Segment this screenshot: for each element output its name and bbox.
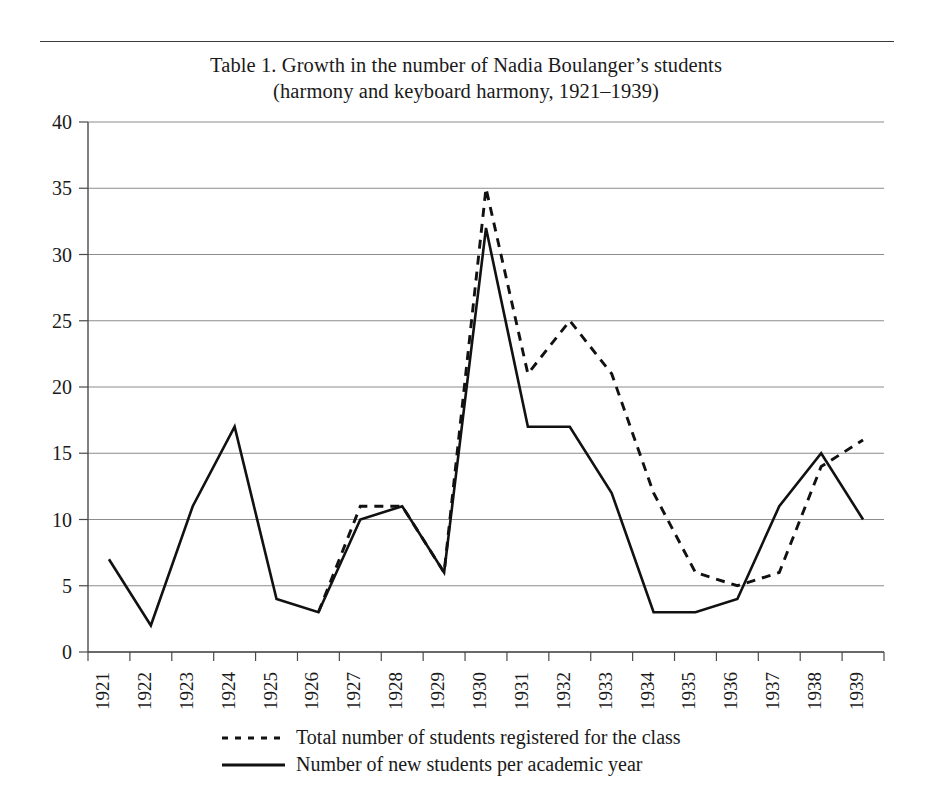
x-tick-label: 1925 xyxy=(260,672,281,710)
x-tick-label: 1929 xyxy=(427,672,448,710)
x-tick-label: 1921 xyxy=(92,672,113,710)
legend-label: Total number of students registered for … xyxy=(296,726,681,749)
x-tick-label: 1935 xyxy=(678,672,699,710)
x-tick-label: 1936 xyxy=(720,672,741,710)
x-axis-ticks-group xyxy=(88,652,884,661)
legend-label: Number of new students per academic year xyxy=(296,753,643,776)
line-chart: 0510152025303540 19211922192319241925192… xyxy=(0,0,932,811)
y-axis-ticks-group xyxy=(79,122,88,652)
x-tick-label: 1938 xyxy=(804,672,825,710)
y-tick-label: 35 xyxy=(52,177,72,199)
gridlines-group xyxy=(88,122,884,652)
y-tick-label: 40 xyxy=(52,111,72,133)
y-axis-labels-group: 0510152025303540 xyxy=(52,111,72,663)
plot-area: 0510152025303540 19211922192319241925192… xyxy=(0,0,932,811)
x-tick-label: 1934 xyxy=(637,672,658,711)
series-total-registered-line xyxy=(318,188,863,612)
y-tick-label: 0 xyxy=(62,641,72,663)
x-tick-label: 1926 xyxy=(301,672,322,710)
y-tick-label: 20 xyxy=(52,376,72,398)
figure-container: Table 1. Growth in the number of Nadia B… xyxy=(0,0,932,811)
legend: Total number of students registered for … xyxy=(222,726,681,776)
x-tick-label: 1924 xyxy=(218,672,239,711)
x-tick-label: 1939 xyxy=(846,672,867,710)
y-tick-label: 25 xyxy=(52,310,72,332)
x-tick-label: 1932 xyxy=(553,672,574,710)
y-tick-label: 5 xyxy=(62,575,72,597)
x-tick-label: 1922 xyxy=(134,672,155,710)
x-tick-label: 1937 xyxy=(762,672,783,710)
x-axis-labels-group: 1921192219231924192519261927192819291930… xyxy=(92,672,867,711)
x-tick-label: 1930 xyxy=(469,672,490,710)
series-new-students-line xyxy=(109,228,863,626)
y-tick-label: 30 xyxy=(52,244,72,266)
x-tick-label: 1927 xyxy=(343,672,364,710)
x-tick-label: 1928 xyxy=(385,672,406,710)
y-tick-label: 10 xyxy=(52,509,72,531)
x-tick-label: 1923 xyxy=(176,672,197,710)
y-tick-label: 15 xyxy=(52,442,72,464)
x-tick-label: 1931 xyxy=(511,672,532,710)
x-tick-label: 1933 xyxy=(595,672,616,710)
